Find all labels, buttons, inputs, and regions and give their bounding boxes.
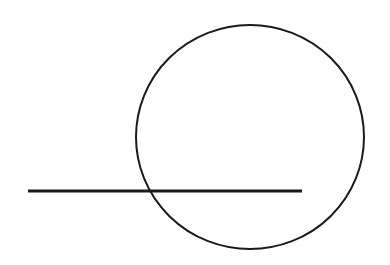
circle-shape xyxy=(136,25,364,249)
diagram-canvas xyxy=(0,0,390,265)
